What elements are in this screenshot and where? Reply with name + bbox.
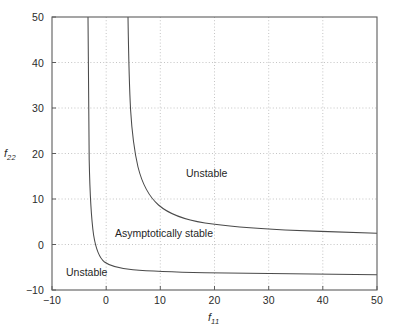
y-tick-label-10: 10	[18, 193, 44, 205]
x-tick-label-30: 30	[249, 294, 289, 306]
x-tick-label-20: 20	[195, 294, 235, 306]
y-tick-label-30: 30	[18, 102, 44, 114]
x-axis-title-subscript: 11	[211, 317, 219, 326]
y-axis-title-subscript: 22	[7, 153, 16, 162]
x-tick-label-10: 10	[140, 294, 180, 306]
x-tick-label-minus10: −10	[32, 294, 72, 306]
x-tick-label-40: 40	[303, 294, 343, 306]
x-tick-label-50: 50	[357, 294, 395, 306]
x-axis-title: f11	[208, 311, 219, 326]
region-label-unstable-lower: Unstable	[66, 266, 107, 278]
region-label-unstable-upper: Unstable	[186, 167, 227, 179]
stability-chart-figure: 50 40 30 20 10 0 −10 −10 0 10 20 30 40 5…	[0, 0, 395, 333]
x-tick-label-0: 0	[86, 294, 126, 306]
y-tick-label-50: 50	[18, 11, 44, 23]
y-tick-label-0: 0	[18, 239, 44, 251]
y-axis-title: f22	[4, 147, 16, 162]
y-tick-label-40: 40	[18, 57, 44, 69]
region-label-asymptotically-stable: Asymptotically stable	[115, 227, 213, 239]
y-tick-label-20: 20	[18, 148, 44, 160]
